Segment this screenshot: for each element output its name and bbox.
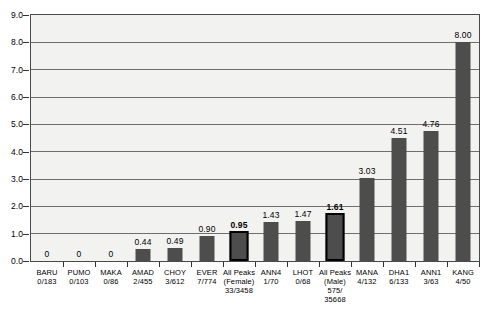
y-tick-label: 1.0 xyxy=(11,229,23,239)
x-tick-mark xyxy=(159,262,160,267)
y-tick-label: 4.0 xyxy=(11,147,23,157)
y-tick-mark xyxy=(23,261,29,262)
y-tick-mark xyxy=(23,179,29,180)
y-tick-mark xyxy=(23,234,29,235)
bar-value-label: 1.47 xyxy=(295,209,312,219)
bar-group: 0 xyxy=(95,15,127,261)
bar-value-label: 0.90 xyxy=(199,224,216,234)
x-tick-label: KANG4/50 xyxy=(441,268,483,286)
bar-group: 0 xyxy=(31,15,63,261)
y-tick-label: 5.0 xyxy=(11,119,23,129)
bar-value-label: 8.00 xyxy=(455,30,472,40)
y-tick-label: 8.0 xyxy=(11,37,23,47)
bar-group: 1.61 xyxy=(319,15,351,261)
x-tick-mark xyxy=(415,262,416,267)
bar xyxy=(168,248,183,261)
y-tick-mark xyxy=(23,42,29,43)
bar-group: 0.49 xyxy=(159,15,191,261)
bar-group: 1.43 xyxy=(255,15,287,261)
y-tick-mark xyxy=(23,97,29,98)
x-tick-mark xyxy=(479,262,480,267)
bar-value-label: 0 xyxy=(45,249,50,259)
bar-value-label: 0 xyxy=(77,249,82,259)
x-tick-mark xyxy=(319,262,320,267)
bar xyxy=(456,42,471,261)
bar-group: 8.00 xyxy=(447,15,479,261)
bar xyxy=(326,213,345,261)
bar-value-label: 1.61 xyxy=(327,202,344,212)
x-tick-mark xyxy=(63,262,64,267)
bar-value-label: 4.76 xyxy=(423,119,440,129)
x-tick-label-name: KANG xyxy=(441,268,483,277)
x-tick-mark xyxy=(223,262,224,267)
x-axis-labels: BARU0/183PUMO0/103MAKA0/86AMAD2/455CHOY3… xyxy=(31,268,479,317)
bar xyxy=(230,231,249,261)
y-tick-label: 3.0 xyxy=(11,174,23,184)
bar xyxy=(200,236,215,261)
x-axis-ticks xyxy=(31,262,479,267)
y-tick-label: 6.0 xyxy=(11,92,23,102)
x-tick-mark xyxy=(191,262,192,267)
bar-value-label: 3.03 xyxy=(359,166,376,176)
bar xyxy=(360,178,375,261)
bar-value-label: 1.43 xyxy=(263,210,280,220)
bar-group: 1.47 xyxy=(287,15,319,261)
y-tick-label: 2.0 xyxy=(11,201,23,211)
x-tick-mark xyxy=(127,262,128,267)
bar xyxy=(264,222,279,261)
y-tick-label: 9.0 xyxy=(11,10,23,20)
y-tick-mark xyxy=(23,124,29,125)
x-tick-label-ratio: 4/50 xyxy=(441,277,483,286)
bar-value-label: 0.44 xyxy=(135,237,152,247)
x-tick-mark xyxy=(447,262,448,267)
x-tick-mark xyxy=(255,262,256,267)
bar xyxy=(136,249,151,261)
bar-chart: 0.01.02.03.04.05.06.07.08.09.0 0000.440.… xyxy=(0,0,483,317)
bar-value-label: 4.51 xyxy=(391,126,408,136)
bar-group: 0.95 xyxy=(223,15,255,261)
bar xyxy=(392,138,407,261)
x-tick-label-ratio: 575/ xyxy=(313,286,357,295)
bar-group: 0.44 xyxy=(127,15,159,261)
x-tick-mark xyxy=(383,262,384,267)
y-tick-label: 0.0 xyxy=(11,256,23,266)
y-axis: 0.01.02.03.04.05.06.07.08.09.0 xyxy=(0,14,28,262)
y-tick-mark xyxy=(23,15,29,16)
y-tick-mark xyxy=(23,152,29,153)
x-tick-label-ratio-cont: 35668 xyxy=(313,295,357,304)
bar-group: 4.76 xyxy=(415,15,447,261)
bars-layer: 0000.440.490.900.951.431.471.613.034.514… xyxy=(31,15,479,261)
x-tick-mark xyxy=(287,262,288,267)
bar-group: 4.51 xyxy=(383,15,415,261)
bar-value-label: 0.95 xyxy=(231,220,248,230)
bar-value-label: 0.49 xyxy=(167,236,184,246)
y-tick-mark xyxy=(23,70,29,71)
y-tick-label: 7.0 xyxy=(11,65,23,75)
bar xyxy=(296,221,311,261)
bar-group: 3.03 xyxy=(351,15,383,261)
bar-value-label: 0 xyxy=(109,249,114,259)
bar-group: 0 xyxy=(63,15,95,261)
y-tick-mark xyxy=(23,206,29,207)
bar-group: 0.90 xyxy=(191,15,223,261)
x-tick-mark xyxy=(351,262,352,267)
x-tick-mark xyxy=(95,262,96,267)
x-tick-label-ratio: 33/3458 xyxy=(217,286,261,295)
bar xyxy=(424,131,439,261)
